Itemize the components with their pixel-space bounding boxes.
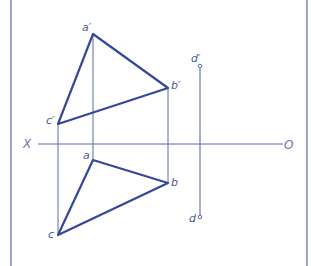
label-b: b	[171, 176, 178, 189]
label-c: c	[48, 228, 54, 241]
top-view-triangle	[58, 160, 168, 235]
point-d-marker	[198, 215, 202, 219]
label-a: a	[83, 149, 90, 162]
axis-label-x: X	[22, 137, 32, 151]
label-d-prime: d′	[191, 52, 201, 65]
projection-diagram: X O a′ b′ c′ d′ a b c d	[0, 0, 311, 266]
front-view-triangle	[58, 34, 168, 124]
label-d: d	[189, 212, 197, 225]
label-a-prime: a′	[82, 21, 92, 34]
label-b-prime: b′	[171, 79, 181, 92]
axis-label-o: O	[284, 138, 293, 152]
label-c-prime: c′	[46, 114, 55, 127]
